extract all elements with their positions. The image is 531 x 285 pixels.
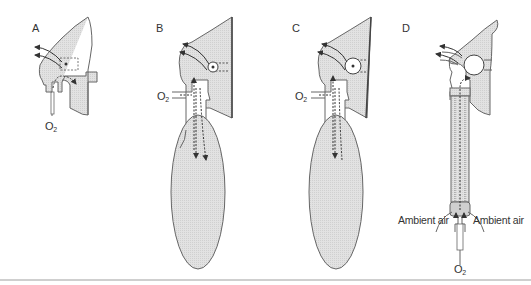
panel-d-ambient-air-left: Ambient air — [398, 214, 449, 226]
panel-d-mask — [436, 20, 498, 265]
panel-a-label: A — [32, 22, 40, 34]
panel-d-label: D — [402, 22, 410, 34]
bottom-divider — [0, 279, 531, 281]
panel-a-mask — [35, 17, 97, 116]
panel-b-mask — [171, 17, 232, 269]
panel-d-o2-label: O2 — [454, 263, 466, 276]
oxygen-mask-diagram: A B — [0, 0, 531, 285]
panel-a-o2-label: O2 — [45, 120, 57, 133]
panel-b-label: B — [156, 22, 163, 34]
panel-b-o2-label: O2 — [157, 90, 169, 103]
panel-c-mask — [309, 17, 371, 269]
panel-c-label: C — [292, 22, 300, 34]
panel-c-o2-label: O2 — [295, 90, 307, 103]
panel-d-ambient-air-right: Ambient air — [473, 214, 524, 226]
